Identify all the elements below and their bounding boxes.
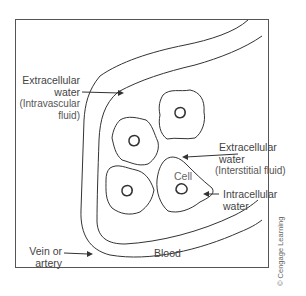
label-extracellular-intravascular: Extracellular water (Intravascular fluid… [10, 74, 80, 122]
label-extracellular-interstitial: Extracellular water (Interstitial fluid) [215, 141, 286, 177]
label-line: fluid) [10, 110, 80, 122]
label-line: (Interstitial fluid) [215, 165, 286, 177]
label-intracellular: Intracellular water [223, 188, 277, 212]
label-line: Extracellular [219, 141, 286, 153]
label-line: (Intravascular [10, 98, 80, 110]
nucleus [176, 184, 187, 194]
cell-bottom-left [106, 166, 154, 214]
label-line: water [223, 200, 277, 212]
label-line: Intracellular [223, 188, 277, 200]
label-line: Vein or [22, 245, 62, 257]
label-line: water [219, 153, 286, 165]
nucleus [122, 185, 132, 195]
copyright-notice: © Cengage Learning [276, 217, 285, 286]
label-vessel: Vein or artery [22, 245, 62, 269]
vessel-outer-upper [100, 20, 248, 76]
label-blood: Blood [154, 247, 181, 259]
nucleus [129, 135, 139, 145]
label-cell: Cell [174, 170, 192, 182]
arrow-vessel [64, 253, 88, 254]
nucleus [175, 107, 185, 117]
cell-top-right [159, 90, 204, 139]
label-line: Extracellular [10, 74, 80, 86]
arrow-intravascular [82, 92, 120, 93]
cell-top-left [112, 117, 158, 165]
label-line: water [10, 86, 80, 98]
label-line: artery [22, 257, 62, 269]
